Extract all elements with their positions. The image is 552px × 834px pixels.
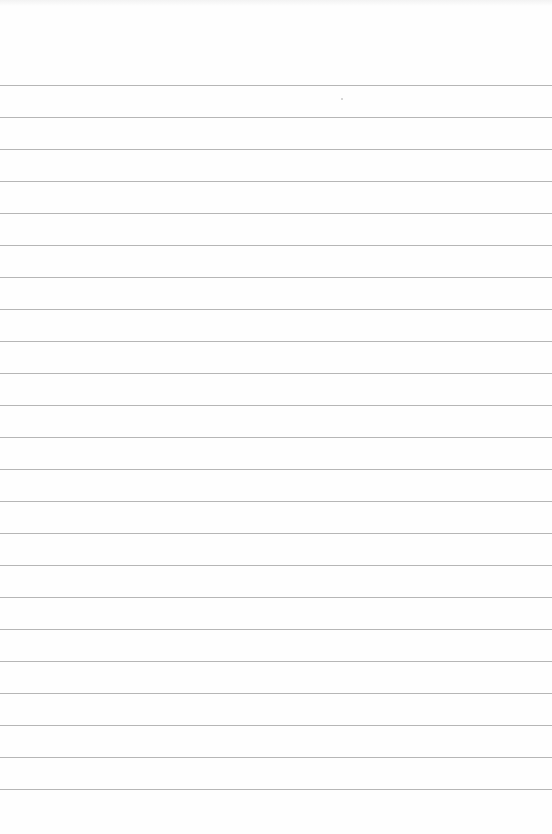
ruled-line	[0, 309, 552, 310]
paper-top-edge	[0, 0, 552, 6]
ruled-line	[0, 757, 552, 758]
ruled-line	[0, 693, 552, 694]
ruled-line	[0, 341, 552, 342]
ruled-line	[0, 725, 552, 726]
ruled-line	[0, 245, 552, 246]
ruled-line	[0, 501, 552, 502]
ruled-line	[0, 469, 552, 470]
ruled-line	[0, 181, 552, 182]
ruled-line	[0, 373, 552, 374]
paper-speck	[341, 98, 343, 100]
ruled-line	[0, 277, 552, 278]
ruled-line	[0, 789, 552, 790]
ruled-line	[0, 597, 552, 598]
ruled-line	[0, 405, 552, 406]
ruled-line	[0, 117, 552, 118]
lined-paper-sheet	[0, 0, 552, 834]
ruled-line	[0, 213, 552, 214]
ruled-line	[0, 533, 552, 534]
ruled-line	[0, 565, 552, 566]
ruled-line	[0, 149, 552, 150]
ruled-line	[0, 85, 552, 86]
ruled-line	[0, 661, 552, 662]
ruled-line	[0, 629, 552, 630]
ruled-line	[0, 437, 552, 438]
